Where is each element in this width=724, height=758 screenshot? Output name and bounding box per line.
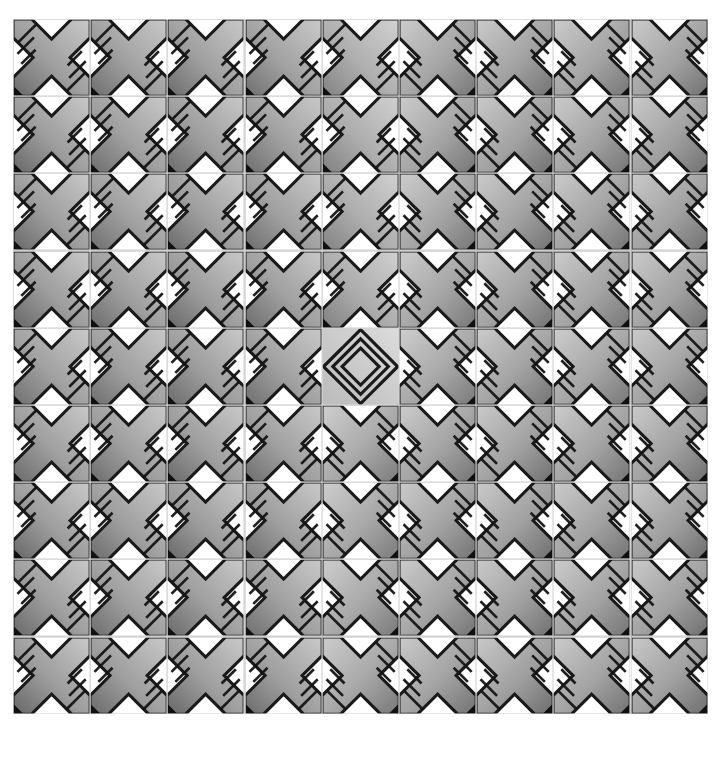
pattern-tile: [322, 251, 399, 328]
pattern-tile: [167, 96, 244, 173]
pattern-tile: [631, 328, 708, 405]
pattern-tile: [553, 482, 630, 559]
pattern-tile: [399, 482, 476, 559]
pattern-tile: [322, 637, 399, 714]
pattern-tile: [631, 482, 708, 559]
pattern-tile: [322, 96, 399, 173]
pattern-tile: [553, 251, 630, 328]
pattern-tile: [553, 328, 630, 405]
pattern-tile: [631, 19, 708, 96]
pattern-tile: [167, 637, 244, 714]
pattern-tile: [631, 251, 708, 328]
pattern-tile: [245, 559, 322, 636]
pattern-tile: [476, 637, 553, 714]
pattern-tile: [553, 405, 630, 482]
pattern-tile: [90, 173, 167, 250]
pattern-tile: [553, 19, 630, 96]
pattern-tile: [553, 559, 630, 636]
pattern-tile: [167, 173, 244, 250]
pattern-tile: [167, 328, 244, 405]
pattern-tile: [13, 328, 90, 405]
pattern-tile: [553, 96, 630, 173]
pattern-tile: [167, 405, 244, 482]
pattern-tile: [399, 405, 476, 482]
pattern-tile: [553, 637, 630, 714]
pattern-tile: [631, 559, 708, 636]
pattern-tile: [167, 482, 244, 559]
pattern-tile: [631, 637, 708, 714]
pattern-tile: [90, 405, 167, 482]
pattern-tile: [476, 173, 553, 250]
pattern-tile: [476, 405, 553, 482]
pattern-tile: [245, 251, 322, 328]
pattern-tile: [13, 251, 90, 328]
pattern-tile: [90, 251, 167, 328]
pattern-tile: [167, 251, 244, 328]
pattern-tile: [322, 328, 399, 405]
pattern-tile: [13, 173, 90, 250]
pattern-tile: [476, 19, 553, 96]
pattern-tile: [245, 96, 322, 173]
pattern-tile: [399, 637, 476, 714]
pattern-tile: [631, 96, 708, 173]
pattern-tile: [245, 405, 322, 482]
pattern-tile: [322, 19, 399, 96]
pattern-tile: [322, 559, 399, 636]
pattern-tile: [90, 19, 167, 96]
pattern-tile: [322, 173, 399, 250]
pattern-tile: [90, 96, 167, 173]
pattern-tile: [476, 328, 553, 405]
pattern-tile: [476, 559, 553, 636]
pattern-tile: [631, 405, 708, 482]
pattern-tile: [13, 637, 90, 714]
pattern-tile: [399, 328, 476, 405]
pattern-tile: [322, 482, 399, 559]
pattern-tile: [13, 405, 90, 482]
pattern-tile: [476, 482, 553, 559]
pattern-tile: [167, 19, 244, 96]
pattern-tile: [553, 173, 630, 250]
pattern-tile: [90, 328, 167, 405]
pattern-tile: [322, 405, 399, 482]
pattern-tile: [90, 637, 167, 714]
pattern-tile: [13, 96, 90, 173]
pattern-tile: [245, 482, 322, 559]
pattern-tile: [399, 559, 476, 636]
pattern-tile: [13, 19, 90, 96]
pattern-tile: [399, 96, 476, 173]
pattern-tile: [245, 173, 322, 250]
pattern-tile: [399, 19, 476, 96]
pattern-tile: [631, 173, 708, 250]
pattern-tile: [399, 251, 476, 328]
pattern-canvas: [0, 0, 724, 758]
pattern-tile: [13, 559, 90, 636]
pattern-tile: [476, 96, 553, 173]
pattern-tile: [476, 251, 553, 328]
pattern-tile: [399, 173, 476, 250]
pattern-tile: [245, 637, 322, 714]
tile-grid: [13, 19, 708, 714]
pattern-tile: [13, 482, 90, 559]
pattern-tile: [245, 328, 322, 405]
pattern-tile: [167, 559, 244, 636]
pattern-tile: [90, 559, 167, 636]
pattern-tile: [90, 482, 167, 559]
pattern-tile: [245, 19, 322, 96]
